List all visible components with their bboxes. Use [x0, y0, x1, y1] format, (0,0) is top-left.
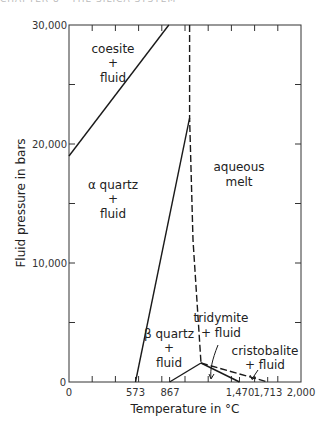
x-tick-1470: 1,470 — [226, 387, 255, 398]
region-aqueous-melt-1: aqueous — [213, 160, 264, 174]
region-beta-quartz-1: β quartz — [144, 327, 194, 341]
y-tick-0: 0 — [60, 377, 66, 388]
region-tridymite-2: + fluid — [201, 326, 241, 340]
y-ticks — [69, 85, 301, 323]
y-axis-label: Fluid pressure in bars — [14, 138, 28, 267]
region-tridymite-1: tridymite — [194, 311, 249, 325]
y-tick-10000: 10,000 — [32, 258, 67, 269]
region-coesite-1: coesite — [92, 42, 135, 56]
x-tick-0: 0 — [66, 387, 72, 398]
region-beta-quartz-3: fluid — [156, 356, 182, 370]
region-cristobalite-2: + fluid — [245, 358, 285, 372]
x-tick-867: 867 — [160, 387, 179, 398]
region-aqueous-melt-2: melt — [225, 175, 252, 189]
region-cristobalite-1: cristobalite — [232, 344, 299, 358]
tridymite-arrowhead — [209, 374, 214, 379]
region-alpha-quartz-3: fluid — [100, 207, 126, 221]
phase-diagram: 0 573 867 1,470 1,713 2,000 0 10,000 20,… — [0, 0, 325, 425]
x-axis-label: Temperature in °C — [130, 402, 240, 416]
x-tick-1713: 1,713 — [254, 387, 283, 398]
x-tick-2000: 2,000 — [287, 387, 316, 398]
alpha-beta-quartz-boundary — [136, 118, 190, 382]
y-tick-20000: 20,000 — [32, 139, 67, 150]
region-alpha-quartz-2: + — [108, 192, 118, 206]
region-alpha-quartz-1: α quartz — [88, 178, 138, 192]
tridymite-arrow — [211, 345, 218, 378]
region-beta-quartz-2: + — [164, 341, 174, 355]
x-tick-573: 573 — [126, 387, 145, 398]
region-coesite-2: + — [108, 56, 118, 70]
y-tick-30000: 30,000 — [32, 20, 67, 31]
region-labels: coesite + fluid α quartz + fluid aqueous… — [88, 42, 299, 372]
region-coesite-3: fluid — [100, 71, 126, 85]
